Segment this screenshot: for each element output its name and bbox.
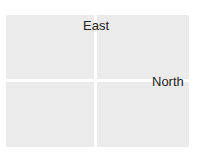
plot-panel: East North xyxy=(6,15,189,147)
east-label: East xyxy=(83,19,109,32)
north-label: North xyxy=(152,75,184,88)
